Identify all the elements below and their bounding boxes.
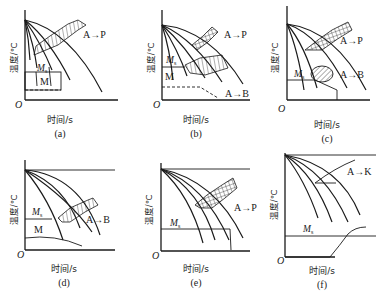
cooling-curve — [285, 155, 318, 218]
caption-c: (c) — [321, 133, 332, 145]
curve-tail — [230, 229, 231, 250]
y-axis-label: 温度/℃ — [146, 42, 156, 73]
pearlite-transformation-region — [195, 178, 237, 208]
ms-label: Ms — [302, 224, 314, 235]
origin-label: O — [17, 249, 24, 260]
cooling-curve — [25, 170, 63, 240]
ms-line — [287, 80, 337, 100]
origin-label: O — [152, 250, 159, 261]
caption-d: (d) — [58, 277, 70, 289]
y-axis-label: 温度/℃ — [270, 42, 280, 73]
a-to-b-label: A→B — [225, 88, 249, 99]
caption-b: (b) — [190, 128, 202, 140]
y-axis-label: 温度/℃ — [269, 189, 279, 220]
y-axis-label: 温度/℃ — [9, 42, 19, 73]
a-to-p-label: A→P — [83, 29, 106, 40]
x-axis-label: 时间/s — [47, 114, 73, 125]
mf-line — [25, 237, 82, 246]
caption-e: (e) — [190, 277, 201, 289]
a-to-k-label: A→K — [347, 166, 372, 177]
y-axis-label: 温度/℃ — [9, 194, 19, 225]
origin-label: O — [15, 99, 22, 110]
a-to-b-label: A→B — [86, 214, 110, 225]
y-axis-label: 温度/℃ — [144, 194, 154, 225]
a-to-p-label: A→P — [224, 29, 247, 40]
transformation-curve — [285, 227, 366, 257]
panel-e: Ms A→P O 时间/s (e) 温度/℃ — [144, 163, 257, 289]
panel-a: Ms M A→P O 时间/s (a) 温度/℃ — [9, 10, 118, 140]
pearlite-transformation-region — [192, 27, 218, 50]
caption-f: (f) — [317, 279, 327, 291]
panel-c: Ms A→P A→B O 时间/s (c) 温度/℃ — [270, 6, 370, 145]
panel-b: Ms M A→P A→B O 时间/s (b) 温度/℃ — [146, 10, 250, 140]
a-to-p-label: A→P — [234, 202, 257, 213]
ms-label: Ms — [31, 207, 43, 218]
a-to-p-label: A→P — [340, 35, 363, 46]
cooling-curve — [162, 25, 187, 76]
x-axis-label: 时间/s — [314, 119, 340, 130]
panel-d: Ms M A→B O 时间/s (d) 温度/℃ — [9, 160, 115, 289]
x-axis-label: 时间/s — [51, 263, 77, 274]
m-label: M — [165, 71, 174, 82]
mf-dashed-line — [162, 87, 218, 98]
cooling-curves-figure: Ms M A→P O 时间/s (a) 温度/℃ Ms M A→P A→B O … — [0, 0, 378, 298]
panel-f: Ms A→K O 时间/s (f) 温度/℃ — [269, 153, 376, 291]
m-label: M — [40, 76, 49, 87]
caption-a: (a) — [54, 128, 65, 140]
x-axis-label: 时间/s — [183, 263, 209, 274]
curve-segment — [49, 67, 51, 86]
ms-label: Ms — [169, 218, 181, 229]
ms-label: Ms — [36, 63, 48, 74]
ms-label: Ms — [165, 55, 177, 66]
curve-segment — [36, 72, 37, 86]
a-to-b-label: A→B — [340, 69, 364, 80]
m-label: M — [34, 224, 43, 235]
ms-label: Ms — [293, 69, 305, 80]
origin-label: O — [278, 103, 285, 114]
x-axis-label: 时间/s — [183, 114, 209, 125]
x-axis-label: 时间/s — [309, 265, 335, 276]
origin-label: O — [153, 99, 160, 110]
origin-label: O — [277, 255, 284, 266]
